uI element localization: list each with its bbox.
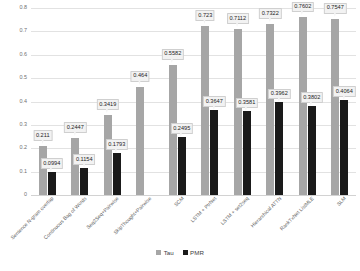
bar-group: 0.75470.4064 — [324, 8, 357, 195]
bar-pmr: 0.3647 — [210, 110, 218, 195]
bar-value-label: 0.3581 — [236, 98, 258, 109]
bar-value-label: 0.2495 — [171, 123, 193, 134]
bar-pmr: 0.3802 — [308, 106, 316, 195]
bar-pmr: 0.1154 — [80, 168, 88, 195]
x-tick-label: RankTxNet ListMLE — [279, 196, 315, 232]
bar-tau: 0.3419 — [104, 115, 112, 195]
bar-chart: 00.10.20.30.40.50.60.70.8 0.2110.09940.2… — [0, 0, 360, 271]
legend-label: PMR — [190, 249, 204, 256]
legend-item-tau[interactable]: Tau — [156, 249, 173, 256]
bar-pmr: 0.4064 — [340, 100, 348, 195]
y-tick-label: 0.8 — [3, 5, 27, 10]
bar-tau: 0.2447 — [71, 138, 79, 195]
bar-value-label: 0.0994 — [41, 158, 63, 169]
legend-item-pmr[interactable]: PMR — [183, 249, 204, 256]
bar-tau: 0.7112 — [234, 29, 242, 195]
y-tick-label: 0.6 — [3, 52, 27, 57]
bar-group: 0.7230.3647 — [194, 8, 227, 195]
bar-group: 0.2110.0994 — [31, 8, 64, 195]
legend-swatch-icon — [183, 250, 188, 255]
bar-group: 0.71120.3581 — [226, 8, 259, 195]
x-tick-label: Seq2Seq+Pairwise — [86, 196, 120, 230]
y-tick-label: 0.4 — [3, 99, 27, 104]
bar-value-label: 0.3419 — [97, 99, 119, 110]
bar-value-label: 0.7602 — [292, 2, 314, 13]
bar-tau: 0.7602 — [299, 17, 307, 195]
bar-value-label: 0.464 — [131, 71, 150, 82]
bar-group: 0.34190.1793 — [96, 8, 129, 195]
bar-value-label: 0.3962 — [268, 89, 290, 100]
y-tick-label: 0.3 — [3, 122, 27, 127]
y-tick-label: 0.5 — [3, 75, 27, 80]
legend-swatch-icon — [156, 250, 161, 255]
x-tick-label: Hierarchical ATTN — [250, 196, 283, 229]
plot-area: 00.10.20.30.40.50.60.70.8 0.2110.09940.2… — [31, 8, 356, 195]
bar-group: 0.76020.3802 — [291, 8, 324, 195]
bar-value-label: 0.3802 — [301, 92, 323, 103]
bar-value-label: 0.5582 — [162, 49, 184, 60]
bar-value-label: 0.7322 — [259, 8, 281, 19]
y-tick-label: 0.2 — [3, 146, 27, 151]
bar-pmr: 0.3581 — [243, 111, 251, 195]
bar-pmr: 0.2495 — [178, 137, 186, 195]
x-tick-label: LSTM + set2seq — [220, 196, 250, 226]
bar-group: 0.73220.3962 — [259, 8, 292, 195]
bar-value-label: 0.211 — [33, 130, 52, 141]
legend-label: Tau — [164, 249, 174, 256]
bar-pmr: 0.1793 — [113, 153, 121, 195]
bar-value-label: 0.3647 — [203, 96, 225, 107]
bar-pmr: 0.0994 — [48, 172, 56, 195]
bar-tau: 0.7547 — [331, 19, 339, 195]
x-tick-label: SkipThought+Pairwise — [113, 196, 153, 236]
bar-value-label: 0.2447 — [64, 122, 86, 133]
bar-tau: 0.211 — [39, 146, 47, 195]
y-tick-label: 0.1 — [3, 169, 27, 174]
y-tick-label: 0.7 — [3, 29, 27, 34]
bar-groups: 0.2110.09940.24470.11540.34190.17930.464… — [31, 8, 356, 195]
bar-value-label: 0.7112 — [227, 13, 249, 24]
x-tick-label: SCM — [173, 196, 185, 208]
bar-tau: 0.464 — [136, 87, 144, 195]
bar-value-label: 0.723 — [196, 10, 215, 21]
bar-group: 0.55820.2495 — [161, 8, 194, 195]
bar-pmr: 0.3962 — [275, 102, 283, 195]
bar-value-label: 0.4064 — [333, 86, 355, 97]
bar-value-label: 0.1154 — [73, 154, 95, 165]
bar-value-label: 0.7547 — [324, 3, 346, 14]
chart-legend: TauPMR — [0, 249, 360, 256]
x-tick-label: LSTM + PtrNet — [190, 196, 218, 224]
bar-group: 0.464 — [129, 8, 162, 195]
y-tick-label: 0 — [3, 192, 27, 197]
bar-group: 0.24470.1154 — [64, 8, 97, 195]
bar-tau: 0.7322 — [266, 24, 274, 195]
x-axis-labels: Sentence N-gram overlapContinuous Bag of… — [31, 196, 356, 248]
bar-tau: 0.723 — [201, 26, 209, 195]
x-tick-label: SLM — [336, 196, 347, 207]
bar-value-label: 0.1793 — [106, 139, 128, 150]
